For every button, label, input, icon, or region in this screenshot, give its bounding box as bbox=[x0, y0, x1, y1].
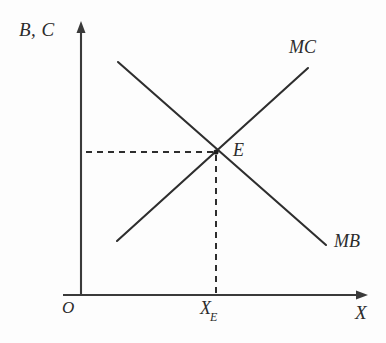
mb-curve-label: MB bbox=[334, 232, 360, 250]
origin-label: O bbox=[62, 299, 74, 316]
y-axis-arrow-icon bbox=[77, 21, 86, 33]
mc-curve-label: MC bbox=[289, 38, 316, 56]
x-axis-arrow-icon bbox=[356, 291, 368, 300]
figure-container: B, C X O MC MB E XE bbox=[0, 0, 386, 343]
equilibrium-quantity-subscript: E bbox=[210, 310, 217, 324]
equilibrium-quantity-label: XE bbox=[200, 299, 218, 321]
y-axis-label: B, C bbox=[19, 20, 55, 39]
mc-curve bbox=[117, 68, 308, 241]
mb-curve bbox=[118, 62, 326, 245]
equilibrium-point-marker bbox=[213, 149, 218, 154]
x-axis-label: X bbox=[355, 303, 367, 322]
diagram-canvas bbox=[0, 0, 386, 343]
equilibrium-point-label: E bbox=[233, 141, 244, 159]
